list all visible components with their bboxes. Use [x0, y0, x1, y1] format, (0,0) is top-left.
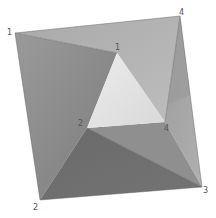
- vertex-label-inner-1: 1: [115, 43, 120, 52]
- folded-square-diagram: 1 4 3 2 1 2 4: [0, 0, 216, 218]
- vertex-label-outer-1: 1: [7, 28, 12, 37]
- vertex-label-outer-4: 4: [179, 8, 184, 17]
- vertex-label-outer-2: 2: [33, 203, 38, 212]
- vertex-label-inner-4: 4: [164, 124, 169, 133]
- vertex-label-inner-2: 2: [78, 119, 83, 128]
- vertex-label-outer-3: 3: [203, 186, 208, 195]
